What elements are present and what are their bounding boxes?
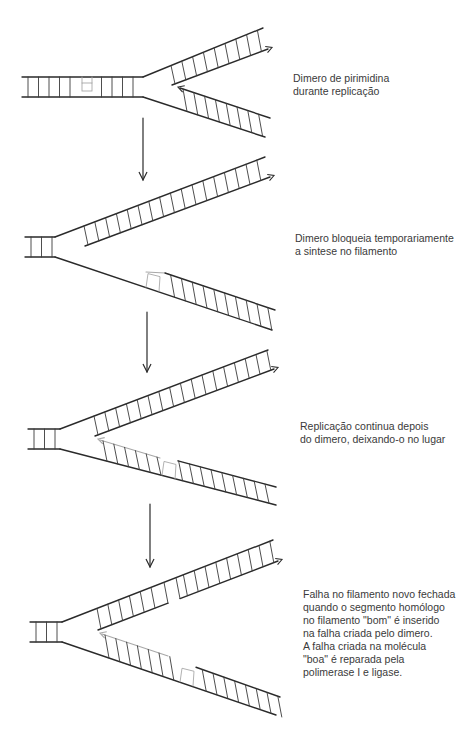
base-pair-rung xyxy=(237,554,241,575)
base-pair-rung xyxy=(278,696,282,717)
base-pair-rung xyxy=(247,35,251,56)
base-pair-rung xyxy=(245,685,249,706)
base-pair-rung xyxy=(248,111,252,133)
lower-template-strand xyxy=(62,642,276,715)
base-pair-rung xyxy=(211,470,215,490)
base-pair-rung xyxy=(227,558,231,579)
lower-template-strand xyxy=(143,97,265,137)
base-pair-rung xyxy=(215,100,219,122)
base-pair-rung xyxy=(97,608,101,628)
base-pair-rung xyxy=(148,396,152,415)
base-pair-rung xyxy=(224,677,228,698)
base-pair-rung xyxy=(192,185,196,205)
base-pair-rung xyxy=(182,61,186,80)
base-pair-rung xyxy=(181,189,185,209)
base-pair-rung xyxy=(193,57,197,76)
base-pair-rung xyxy=(236,39,240,59)
base-pair-rung xyxy=(84,226,88,245)
base-pair-rung xyxy=(246,164,250,184)
base-pair-rung xyxy=(138,205,142,224)
base-pair-rung xyxy=(181,279,185,301)
base-pair-rung xyxy=(200,467,204,487)
base-pair-rung xyxy=(245,359,249,379)
base-pair-rung xyxy=(171,66,175,84)
base-pair-rung xyxy=(203,286,207,308)
base-pair-rung xyxy=(179,461,183,481)
base-pair-rung xyxy=(114,444,118,464)
base-pair-rung xyxy=(225,293,229,315)
base-pair-rung xyxy=(256,689,260,710)
base-pair-rung xyxy=(126,404,130,423)
base-pair-rung xyxy=(171,275,175,297)
base-pair-rung xyxy=(246,300,250,322)
base-pair-rung xyxy=(267,350,271,370)
base-pair-rung xyxy=(222,473,226,492)
base-pair-rung xyxy=(106,218,110,237)
base-pair-rung xyxy=(233,475,237,494)
new-strand-grey xyxy=(100,440,160,458)
caption-stage-1: Dimero de pirimidina durante replicação xyxy=(293,72,389,98)
base-pair-rung xyxy=(254,481,258,500)
base-pair-rung xyxy=(243,478,247,497)
base-pair-rung xyxy=(203,52,207,71)
base-pair-rung xyxy=(235,681,239,702)
base-pair-rung xyxy=(224,367,228,387)
base-pair-rung xyxy=(170,387,174,406)
base-pair-rung xyxy=(191,379,195,398)
base-pair-rung xyxy=(216,562,220,583)
base-pair-rung xyxy=(148,649,152,672)
base-pair-rung xyxy=(225,44,229,64)
gap-edge-rung xyxy=(176,578,180,599)
base-pair-rung xyxy=(192,282,196,304)
base-pair-rung xyxy=(226,103,230,125)
pyrimidine-dimer xyxy=(82,83,92,91)
base-pair-rung xyxy=(213,371,217,390)
base-pair-rung xyxy=(170,193,174,213)
base-pair-rung xyxy=(137,400,141,419)
base-pair-rung xyxy=(146,454,150,473)
base-pair-rung xyxy=(203,181,207,201)
new-strand-upper xyxy=(85,177,270,246)
base-pair-rung xyxy=(214,48,218,68)
base-pair-rung xyxy=(189,464,193,484)
base-pair-rung xyxy=(213,673,217,695)
base-pair-rung xyxy=(183,89,187,111)
base-pair-rung xyxy=(116,639,120,662)
base-pair-rung xyxy=(194,93,198,115)
base-pair-rung xyxy=(257,30,261,51)
base-pair-rung xyxy=(214,289,218,311)
base-pair-rung xyxy=(125,447,129,466)
base-pair-rung xyxy=(116,408,120,427)
base-pair-rung xyxy=(234,363,238,383)
base-pair-rung xyxy=(267,692,271,713)
base-pair-rung xyxy=(103,441,107,461)
upper-template-strand xyxy=(60,350,268,429)
base-pair-rung xyxy=(235,297,239,319)
base-pair-rung xyxy=(265,484,269,503)
base-pair-rung xyxy=(151,587,155,608)
base-pair-rung xyxy=(257,160,261,180)
base-pair-rung xyxy=(202,375,206,394)
caption-stage-4: Falha no filamento novo fechada quando o… xyxy=(303,588,455,679)
base-pair-rung xyxy=(159,653,163,676)
base-pair-rung xyxy=(94,416,98,435)
new-strand-grey xyxy=(146,272,165,273)
base-pair-rung xyxy=(256,355,260,375)
base-pair-rung xyxy=(259,545,263,566)
base-pair-rung xyxy=(268,308,272,330)
base-pair-rung xyxy=(137,646,141,669)
base-pair-rung xyxy=(180,383,184,402)
base-pair-rung xyxy=(194,571,198,592)
base-pair-rung xyxy=(159,391,163,410)
base-pair-rung xyxy=(259,114,263,136)
base-pair-rung xyxy=(205,96,209,118)
new-strand-upper xyxy=(172,49,268,85)
upper-template-strand xyxy=(62,540,273,622)
base-pair-rung xyxy=(95,222,99,241)
new-strand-grey xyxy=(102,634,168,656)
base-pair-rung xyxy=(270,541,274,562)
base-pair-rung xyxy=(248,550,252,571)
base-pair-rung xyxy=(127,209,131,228)
base-pair-rung xyxy=(183,575,187,596)
base-pair-rung xyxy=(160,197,164,217)
